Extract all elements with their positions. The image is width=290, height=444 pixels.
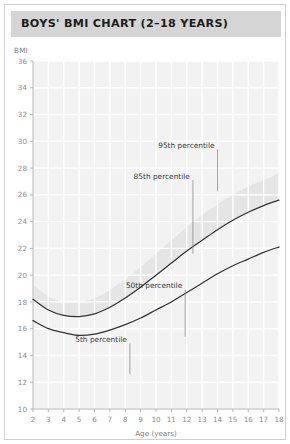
y-tick-label: 34 [18,83,28,92]
x-tick-label: 4 [61,415,66,424]
y-tick-label: 24 [18,217,28,226]
y-tick-label: 12 [18,378,27,387]
y-axis-tick-labels: 1012141618202224262830323436 [18,57,28,414]
y-tick-label: 20 [18,271,28,280]
x-axis-caption: Age (years) [135,429,177,438]
y-tick-label: 28 [18,164,28,173]
y-tick-label: 16 [18,324,28,333]
x-tick-label: 5 [77,415,82,424]
x-tick-label: 11 [167,415,176,424]
y-tick-label: 14 [18,351,28,360]
bmi-chart-svg: 1012141618202224262830323436 23456789101… [5,5,287,441]
percentile-annotation-label: 85th percentile [134,172,191,181]
y-tick-label: 18 [18,298,28,307]
x-tick-label: 6 [92,415,97,424]
x-tick-label: 12 [182,415,191,424]
x-tick-label: 8 [123,415,128,424]
x-tick-label: 17 [259,415,268,424]
x-tick-label: 13 [198,415,207,424]
chart-card: BOYS' BMI CHART (2–18 YEARS) BMI 1012141… [4,4,286,440]
x-axis-title: Age (years) [135,429,177,438]
x-tick-label: 14 [213,415,223,424]
percentile-annotation-label: 50th percentile [126,281,183,290]
y-tick-label: 30 [18,137,28,146]
x-tick-label: 7 [108,415,113,424]
x-axis-tick-labels: 23456789101112131415161718 [31,415,284,424]
x-tick-label: 2 [31,415,36,424]
y-tick-label: 32 [18,110,27,119]
x-tick-label: 15 [228,415,237,424]
y-tick-label: 10 [18,405,28,414]
percentile-annotation-label: 95th percentile [158,141,215,150]
x-tick-label: 9 [138,415,143,424]
x-tick-label: 3 [46,415,51,424]
x-tick-label: 18 [274,415,284,424]
y-tick-label: 26 [18,190,28,199]
y-tick-label: 36 [18,57,28,66]
percentile-annotation-label: 5th percentile [75,335,127,344]
x-tick-label: 16 [244,415,254,424]
chart-plot-area: 1012141618202224262830323436 23456789101… [5,5,287,441]
y-tick-label: 22 [18,244,27,253]
x-tick-label: 10 [151,415,161,424]
